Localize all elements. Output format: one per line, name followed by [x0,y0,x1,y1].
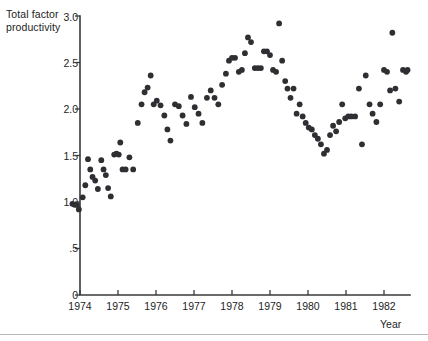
data-point [273,69,279,75]
data-point [315,136,321,142]
data-point [135,120,141,126]
data-point [148,73,154,79]
data-point [297,101,303,107]
data-point [101,167,107,173]
data-point [327,132,333,138]
data-point [76,207,82,213]
data-point [258,65,264,71]
data-point [370,111,376,117]
data-point [324,147,330,153]
data-point [387,88,393,94]
data-point [87,167,93,173]
data-point [176,103,182,109]
data-point [405,67,411,73]
data-point [98,157,104,163]
data-point [363,73,369,79]
data-point [215,101,221,107]
data-point [339,101,345,107]
data-point [204,95,210,101]
data-point [333,128,339,134]
data-point [116,152,122,158]
data-point [188,94,194,100]
data-point [196,111,202,117]
data-point [184,121,190,127]
data-point [276,21,282,27]
data-point [352,114,358,120]
data-points-layer [70,21,411,213]
data-point [309,127,315,133]
data-point [161,113,167,119]
data-point [267,52,273,58]
data-point [288,95,294,101]
data-point [180,113,186,119]
data-point [300,114,306,120]
data-point [158,102,164,108]
data-point [294,111,300,117]
data-point [208,88,214,94]
data-point [367,101,373,107]
data-point [377,101,383,107]
data-point [192,104,198,110]
data-point [393,86,399,92]
data-point [199,120,205,126]
data-point [92,178,98,184]
data-point [95,186,101,192]
data-point [318,141,324,147]
data-point [248,39,254,45]
data-point [130,167,136,173]
data-point [117,140,123,146]
data-point [80,194,86,200]
data-point [384,69,390,75]
data-point [330,123,336,129]
plot-canvas [0,0,428,341]
data-point [103,172,109,178]
data-point [108,194,114,200]
data-point [396,99,402,105]
data-point [359,141,365,147]
data-point [82,182,88,188]
data-point [123,167,129,173]
data-point [232,55,238,61]
data-point [356,86,362,92]
data-point [139,101,145,107]
data-point [105,185,111,191]
data-point [212,95,218,101]
data-point [336,119,342,125]
data-point [168,138,174,144]
data-point [291,86,297,92]
data-point [242,50,248,56]
data-point [165,127,171,133]
data-point [145,85,151,91]
footer-divider [0,334,428,335]
data-point [389,30,395,36]
data-point [239,67,245,73]
data-point [85,156,91,162]
data-point [374,119,380,125]
data-point [127,154,133,160]
data-point [285,86,291,92]
data-point [154,98,160,104]
data-point [279,58,285,64]
scatter-plot-figure: Total factor productivity Year 3.0 2.5 2… [0,0,428,341]
data-point [282,78,288,84]
data-point [219,82,225,88]
data-point [223,71,229,77]
